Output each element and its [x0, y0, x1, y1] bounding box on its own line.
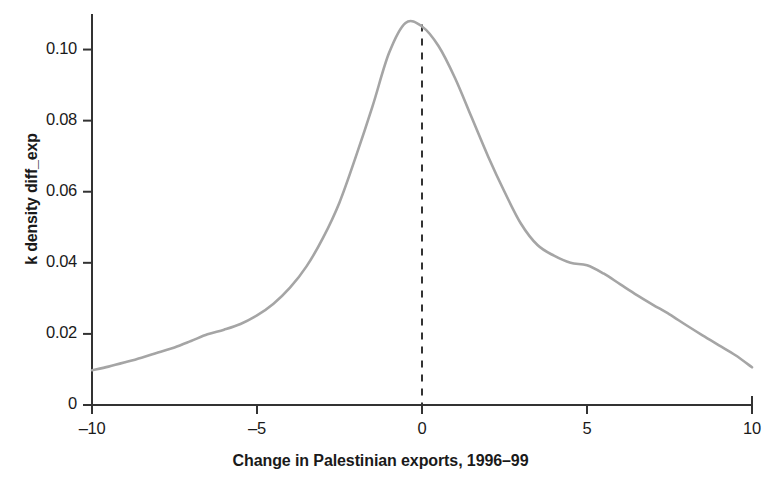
x-axis-label: Change in Palestinian exports, 1996–99 — [0, 452, 761, 470]
y-axis-ticks — [83, 50, 92, 405]
x-tick-label: –10 — [62, 419, 122, 438]
y-tick-label: 0.06 — [11, 181, 77, 200]
y-tick-label: 0.10 — [11, 39, 77, 58]
y-tick-label: 0.02 — [11, 323, 77, 342]
x-axis-ticks — [92, 405, 752, 414]
x-tick-label: –5 — [227, 419, 287, 438]
y-tick-label: 0.08 — [11, 110, 77, 129]
y-tick-label: 0 — [11, 394, 77, 413]
y-tick-label: 0.04 — [11, 252, 77, 271]
x-tick-label: 10 — [722, 419, 766, 438]
x-tick-label: 5 — [557, 419, 617, 438]
x-tick-label: 0 — [392, 419, 452, 438]
